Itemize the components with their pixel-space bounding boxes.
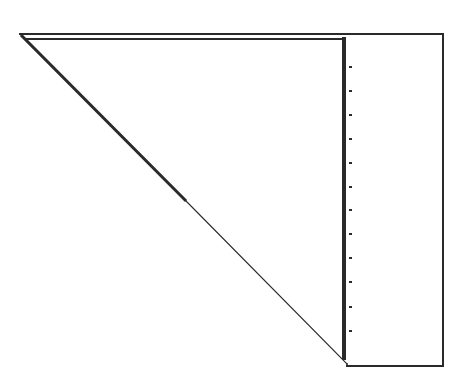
hypotenuse-thin-segment — [185, 200, 347, 364]
triangle-rectangle-diagram — [0, 0, 467, 385]
tick-marks — [349, 67, 352, 331]
hypotenuse-thick-segment — [22, 36, 185, 200]
